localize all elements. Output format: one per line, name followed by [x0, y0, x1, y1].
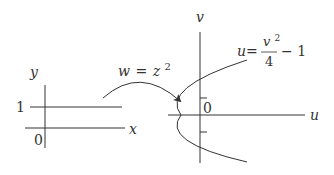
equation-eq: =: [246, 43, 258, 59]
w-origin-label: 0: [203, 100, 212, 116]
equation-lhs: u: [237, 43, 246, 59]
mapping-diagram: y x 0 1 w = z 2 v u 0 u = v 2 4: [0, 0, 334, 175]
y-axis-label: y: [29, 64, 39, 80]
equation-numerator: v 2: [263, 33, 280, 49]
curve-equation: u = v 2 4 − 1: [237, 33, 306, 69]
parabola-curve: [177, 60, 247, 162]
x-axis-label: x: [129, 121, 137, 137]
v-axis-label: v: [196, 9, 204, 25]
equation-denominator: 4: [265, 54, 273, 69]
z-origin-label: 0: [34, 132, 43, 148]
mapping-arrow: w = z 2: [103, 61, 180, 101]
w-plane: v u 0 u = v 2 4 − 1: [168, 9, 319, 163]
line-value-label: 1: [16, 99, 25, 115]
equation-tail: − 1: [281, 43, 306, 59]
mapping-label: w = z 2: [118, 61, 171, 79]
u-axis-label: u: [310, 107, 319, 123]
arrow-curve: [103, 82, 180, 101]
